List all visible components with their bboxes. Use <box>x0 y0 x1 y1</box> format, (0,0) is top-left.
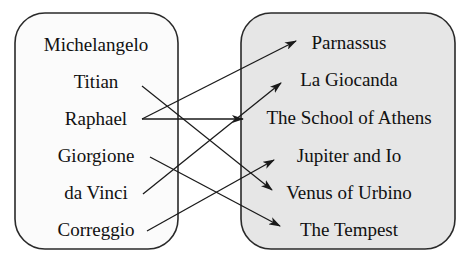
painter-label: Titian <box>74 71 119 92</box>
painter-painting-mapping-diagram: Michelangelo Titian Raphael Giorgione da… <box>0 0 459 259</box>
painter-label: da Vinci <box>64 182 127 203</box>
painter-label: Giorgione <box>58 145 135 166</box>
painting-label: Jupiter and Io <box>297 145 401 166</box>
painter-label: Michelangelo <box>44 34 148 55</box>
painter-label: Correggio <box>57 219 134 240</box>
painting-label: The School of Athens <box>266 107 431 128</box>
painting-label: La Giocanda <box>300 69 398 90</box>
painting-label: Venus of Urbino <box>286 182 412 203</box>
painter-label: Raphael <box>65 108 127 129</box>
painting-label: Parnassus <box>312 32 387 53</box>
painting-label: The Tempest <box>300 219 399 240</box>
